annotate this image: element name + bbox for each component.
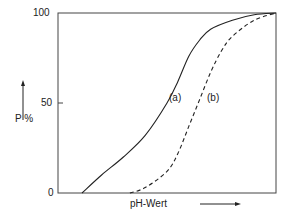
y-tick-label-100: 100 [33,7,50,18]
curve-a [82,13,276,193]
y-tick-label-0: 0 [48,187,54,198]
y-arrow-head-icon [21,80,25,86]
x-axis-label: pH-Wert [130,198,167,209]
series-a-label: (a) [169,92,181,103]
x-arrow-head-icon [235,202,241,206]
y-axis-label: P % [15,113,33,124]
curve-b [130,13,276,193]
y-tick-label-50: 50 [41,97,52,108]
chart-canvas [0,0,287,217]
series-b-label: (b) [207,92,219,103]
